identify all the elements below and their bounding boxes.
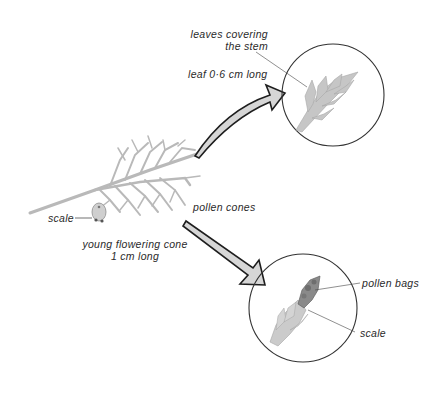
conifer-branch — [30, 136, 200, 215]
pollen-cones-label: pollen cones — [193, 201, 256, 213]
leaves-covering-label: leaves covering the stem — [188, 28, 268, 52]
young-cone-line2: 1 cm long — [70, 250, 200, 262]
magnified-leaf — [296, 72, 358, 132]
young-cone-label: young flowering cone 1 cm long — [70, 238, 200, 262]
scale-detail-label: scale — [360, 327, 386, 339]
leaves-covering-line2: the stem — [188, 40, 268, 52]
young-cone-line1: young flowering cone — [70, 238, 200, 250]
leaves-covering-line1: leaves covering — [188, 28, 268, 40]
curved-arrow-icon — [195, 85, 285, 158]
scale-detail-leader-line — [308, 310, 355, 332]
leaf-length-label: leaf 0·6 cm long — [188, 68, 268, 80]
diagram-canvas: leaves covering the stem leaf 0·6 cm lon… — [0, 0, 428, 393]
pollen-bags-label: pollen bags — [362, 277, 419, 289]
magnified-pollen-cone — [270, 276, 320, 346]
scale-label: scale — [48, 212, 74, 224]
young-flowering-cone — [92, 203, 106, 223]
